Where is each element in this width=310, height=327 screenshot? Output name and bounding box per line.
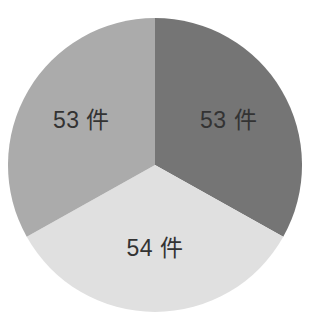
pie-slice-label-0: 53 件 [200,107,257,133]
pie-slice-label-1: 54 件 [127,235,184,261]
pie-chart-figure: 53 件54 件53 件 [0,0,310,327]
pie-slice-label-2: 53 件 [53,107,110,133]
pie-chart: 53 件54 件53 件 [0,0,310,327]
